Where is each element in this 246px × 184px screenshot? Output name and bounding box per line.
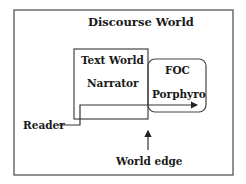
world-edge-label: World edge bbox=[116, 156, 183, 167]
porphyro-label: Porphyro bbox=[152, 89, 206, 100]
reader-path-arrow bbox=[58, 105, 197, 125]
discourse-world-label: Discourse World bbox=[88, 17, 194, 29]
foc-label: FOC bbox=[165, 65, 190, 76]
text-world-label: Text World bbox=[81, 55, 144, 66]
reader-label: Reader bbox=[23, 120, 65, 131]
narrator-label: Narrator bbox=[87, 78, 139, 89]
